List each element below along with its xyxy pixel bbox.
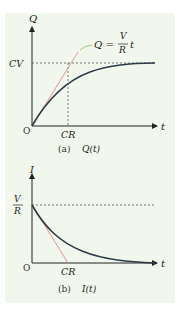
caption-b-func: I(t) <box>81 284 97 294</box>
eq-denominator: R <box>118 45 126 55</box>
vr-label: V R <box>13 194 23 216</box>
diagram-canvas: Q t O CV CR Q = V R t (a) Q(t) I t O V R… <box>0 0 181 314</box>
leader-line <box>80 45 92 50</box>
tangent-equation: Q = V R t <box>94 31 135 55</box>
eq-variable: t <box>130 39 135 50</box>
y-axis-label: Q <box>29 13 37 24</box>
vr-numerator: V <box>14 194 22 204</box>
charge-curve <box>32 63 155 126</box>
vr-denominator: R <box>13 206 21 216</box>
caption-b-tag: (b) <box>58 284 71 294</box>
caption-a-tag: (a) <box>58 144 70 154</box>
origin-label: O <box>23 263 30 273</box>
chart-q-of-t: Q t O CV CR Q = V R t (a) Q(t) <box>9 13 166 154</box>
eq-lhs: Q = <box>94 39 114 50</box>
chart-i-of-t: I t O V R CR (b) I(t) <box>13 164 166 294</box>
x-axis-label: t <box>161 121 166 132</box>
eq-numerator: V <box>120 31 128 41</box>
caption-a-func: Q(t) <box>82 144 101 154</box>
cr-label: CR <box>61 129 75 140</box>
x-axis-label: t <box>161 258 166 269</box>
y-axis-label: I <box>29 164 35 175</box>
origin-label: O <box>23 126 30 136</box>
cv-label: CV <box>9 58 24 69</box>
cr-label: CR <box>61 266 75 277</box>
